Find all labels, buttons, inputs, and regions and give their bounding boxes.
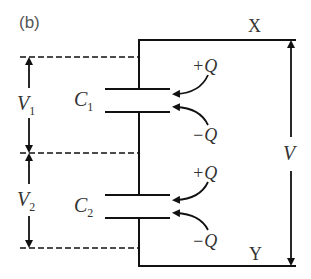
v2-label: V2	[17, 188, 35, 214]
series-capacitor-diagram: (b) X	[0, 0, 311, 279]
circuit-wires	[139, 40, 296, 266]
node-label-y: Y	[249, 244, 262, 264]
c2-plus-q: +Q	[192, 163, 217, 183]
capacitor-c2	[105, 195, 170, 218]
dashed-guides	[20, 57, 139, 248]
c1-minus-q: −Q	[192, 125, 217, 145]
v1-label: V1	[17, 92, 35, 118]
minus-charge-arrow-icon	[176, 213, 208, 230]
node-label-x: X	[248, 16, 261, 36]
minus-charge-arrow-icon	[176, 107, 208, 125]
c2-charge-arrows	[176, 182, 208, 230]
top-wire	[139, 40, 296, 89]
c1-charge-arrows	[176, 75, 208, 125]
plus-charge-arrow-icon	[176, 182, 208, 200]
c2-label: C2	[74, 194, 93, 220]
bottom-wire	[139, 218, 296, 266]
c1-plus-q: +Q	[192, 56, 217, 76]
panel-label: (b)	[19, 13, 40, 32]
plus-charge-arrow-icon	[176, 75, 208, 94]
c1-label: C1	[74, 88, 93, 114]
c2-minus-q: −Q	[192, 231, 217, 251]
total-voltage-label: V	[283, 142, 298, 164]
capacitor-c1	[105, 89, 170, 112]
